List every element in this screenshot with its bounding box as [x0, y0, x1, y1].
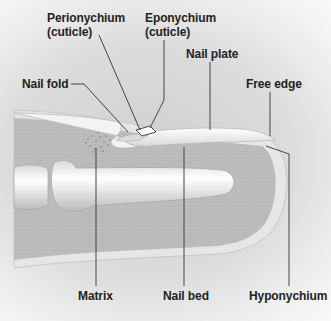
label-eponychium: Eponychium (cuticle) [145, 11, 216, 39]
label-hyponychium: Hyponychium [249, 289, 327, 303]
middle-phalanx-bone [14, 165, 48, 210]
label-nail-bed: Nail bed [163, 289, 209, 303]
label-perionychium-line2: (cuticle) [47, 25, 125, 39]
label-nail-plate: Nail plate [186, 47, 238, 61]
label-perionychium: Perionychium (cuticle) [47, 11, 125, 39]
label-eponychium-line2: (cuticle) [145, 25, 216, 39]
nail-anatomy-diagram: Perionychium (cuticle) Eponychium (cutic… [0, 0, 331, 321]
label-perionychium-line1: Perionychium [47, 11, 125, 25]
label-matrix: Matrix [78, 289, 113, 303]
label-free-edge: Free edge [246, 77, 302, 91]
finger-illustration [0, 0, 331, 321]
label-eponychium-line1: Eponychium [145, 11, 216, 25]
label-nail-fold: Nail fold [22, 77, 68, 91]
